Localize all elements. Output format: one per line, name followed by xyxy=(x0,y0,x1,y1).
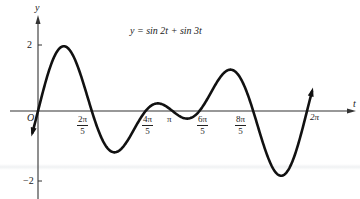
equation-label: y = sin 2t + sin 3t xyxy=(130,26,202,36)
x-tick-label-4pi-over-5: 4π 5 xyxy=(142,115,153,136)
x-tick-label-6pi-over-5: 6π 5 xyxy=(197,115,208,136)
y-tick-label-2: 2 xyxy=(27,40,32,50)
curve-start-arrow-icon xyxy=(31,127,37,136)
x-tick-label-8pi-over-5: 8π 5 xyxy=(235,115,246,136)
x-tick-label-2pi-over-5: 2π 5 xyxy=(77,115,88,136)
t-axis-arrow-icon xyxy=(347,109,356,114)
y-axis-arrow-icon xyxy=(36,15,41,24)
y-tick-label-neg2: −2 xyxy=(23,176,34,186)
t-axis-label: t xyxy=(353,99,356,109)
chart-figure: y t O y = sin 2t + sin 3t 2 −2 2π 5 4π 5… xyxy=(0,0,360,199)
origin-label: O xyxy=(27,113,34,123)
x-tick-label-pi: π xyxy=(167,115,172,124)
y-axis-label: y xyxy=(35,3,39,13)
x-tick-label-2pi: 2π xyxy=(310,113,319,122)
curve-end-arrow-icon xyxy=(308,88,314,97)
